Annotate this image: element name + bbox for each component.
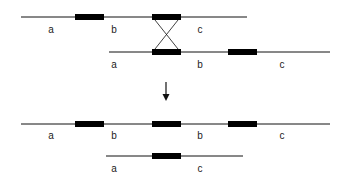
gene-block: [75, 14, 104, 20]
down-arrow-icon: [163, 82, 170, 101]
crossover-diagram: a b c a b c a b b c a c: [0, 0, 348, 184]
label-a: a: [111, 164, 117, 174]
label-b: b: [197, 60, 203, 70]
gene-block: [152, 121, 181, 127]
gene-block: [75, 121, 104, 127]
label-c: c: [280, 60, 285, 70]
gene-block: [152, 14, 181, 20]
gene-block: [152, 49, 181, 55]
label-b: b: [111, 131, 117, 141]
strand-2: [109, 49, 330, 55]
gene-block: [228, 121, 257, 127]
gene-block: [152, 153, 181, 159]
label-a: a: [48, 131, 54, 141]
crossover-x: [155, 20, 178, 49]
label-a: a: [111, 60, 117, 70]
label-a: a: [48, 25, 54, 35]
gene-block: [228, 49, 257, 55]
label-b: b: [197, 131, 203, 141]
label-c: c: [280, 131, 285, 141]
label-b: b: [111, 25, 117, 35]
label-c: c: [198, 164, 203, 174]
label-c: c: [198, 25, 203, 35]
product-2: [106, 153, 243, 159]
product-1: [21, 121, 330, 127]
strand-1: [21, 14, 247, 20]
